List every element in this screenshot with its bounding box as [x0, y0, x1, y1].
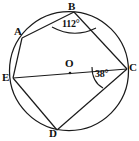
vertex-label-E: E — [2, 72, 9, 83]
center-point-dot — [69, 72, 72, 75]
vertex-label-A: A — [14, 26, 22, 37]
circle-outline — [10, 12, 129, 131]
vertex-label-C: C — [129, 62, 137, 73]
center-label-O: O — [65, 58, 73, 69]
chord-AE — [13, 38, 22, 78]
vertex-label-D: D — [49, 128, 57, 139]
angle-measure-at-B: 112° — [62, 19, 80, 29]
angle-measure-at-C: 38° — [95, 69, 108, 79]
chord-DC — [57, 69, 127, 130]
geometry-figure: A B C D E O 112° 38° — [0, 0, 139, 141]
vertex-label-B: B — [68, 1, 75, 12]
